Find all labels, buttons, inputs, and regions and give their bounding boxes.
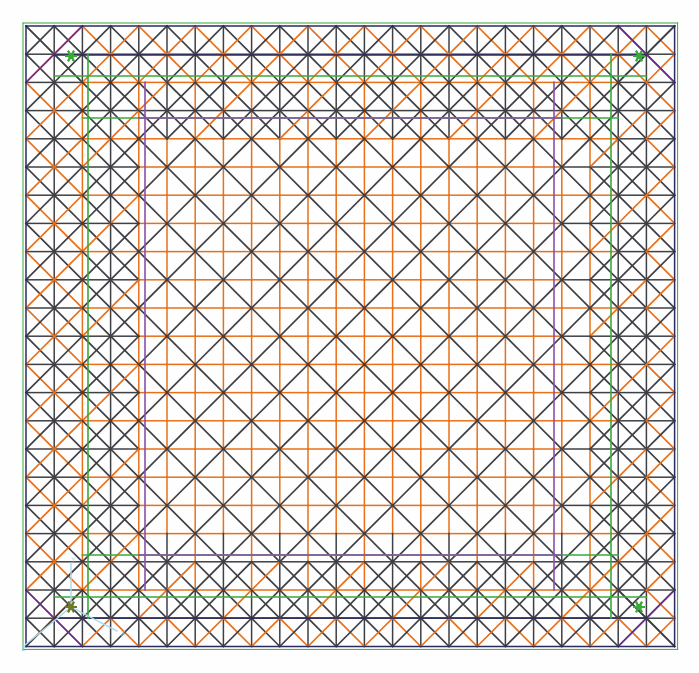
axis-label-z: Z <box>21 645 26 652</box>
star-center <box>636 604 642 610</box>
star-center <box>636 53 642 59</box>
star-center <box>68 53 74 59</box>
star-center <box>68 604 74 610</box>
axis-label-y: Y <box>71 556 76 563</box>
axis-label-x: X <box>121 630 126 637</box>
mesh-viewport[interactable]: XYZ <box>0 0 699 673</box>
mesh-canvas[interactable]: XYZ <box>0 0 699 673</box>
